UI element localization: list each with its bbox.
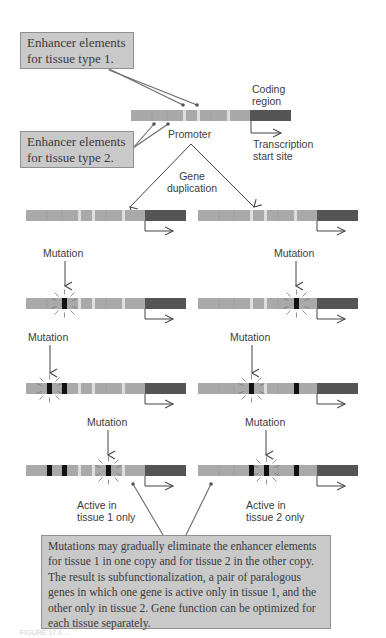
row-mutation-2 <box>26 345 358 404</box>
mutation-label: Mutation <box>28 331 68 343</box>
summary-pointers <box>131 482 213 535</box>
active-tissue-2-label: Active in tissue 2 only <box>246 499 304 523</box>
figure-caption: FIGURE 17.4 ... <box>20 629 70 636</box>
label-line: tissue 1 only <box>77 511 135 523</box>
mutation-label: Mutation <box>87 416 127 428</box>
label-line: tissue 2 only <box>246 511 304 523</box>
row-mutation-1 <box>26 261 358 319</box>
enhancer-tissue-1-callout: Enhancer elements for tissue type 1. <box>20 32 134 69</box>
subfunctionalization-summary-callout: Mutations may gradually eliminate the en… <box>41 535 331 629</box>
label-line: Active in <box>246 499 304 511</box>
enhancer-1-pointers <box>107 68 199 107</box>
callout-line: for tissue type 2. <box>27 150 127 166</box>
transcription-start-arrow <box>251 121 281 133</box>
gene-copy-right <box>198 210 358 231</box>
label-line: Transcription <box>253 138 313 150</box>
callout-line: Enhancer elements <box>27 35 127 51</box>
coding-region-label: Coding region <box>252 83 285 107</box>
mutation-mark <box>62 298 67 309</box>
mutation-label: Mutation <box>274 247 314 259</box>
gene-copy-left <box>26 210 186 231</box>
label-line: Gene <box>164 170 220 182</box>
mutation-label: Mutation <box>230 331 270 343</box>
row-duplicated <box>26 210 358 231</box>
callout-line: Enhancer elements <box>27 134 127 150</box>
row-mutation-3 <box>26 430 358 486</box>
active-tissue-1-label: Active in tissue 1 only <box>77 499 135 523</box>
enhancer-tissue-2-callout: Enhancer elements for tissue type 2. <box>20 131 134 168</box>
mutation-label: Mutation <box>43 247 83 259</box>
label-line: Coding <box>252 83 285 95</box>
coding-region <box>250 110 291 121</box>
label-line: region <box>252 95 285 107</box>
enhancer-2-pointers <box>133 122 170 148</box>
label-line: duplication <box>164 182 220 194</box>
transcription-start-site-label: Transcription start site <box>253 138 313 162</box>
label-line: start site <box>253 150 313 162</box>
label-line: Active in <box>77 499 135 511</box>
promoter-label: Promoter <box>168 128 211 140</box>
mutation-label: Mutation <box>245 416 285 428</box>
mutation-mark <box>294 298 299 309</box>
gene-duplication-label: Gene duplication <box>164 170 220 194</box>
callout-line: for tissue type 1. <box>27 51 127 67</box>
subfunctionalization-diagram: Enhancer elements for tissue type 1. Enh… <box>0 0 386 638</box>
